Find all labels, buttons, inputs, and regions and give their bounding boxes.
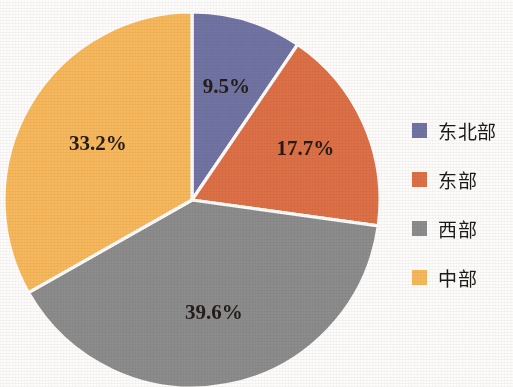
legend-color-swatch bbox=[412, 123, 427, 138]
legend-item-label: 东北部 bbox=[438, 117, 497, 144]
pie-slice-data-label: 39.6% bbox=[185, 300, 243, 324]
legend-color-swatch bbox=[412, 270, 427, 285]
pie-slices-group bbox=[4, 12, 380, 387]
chart-legend: 东北部东部西部中部 bbox=[412, 106, 511, 302]
pie-slice-data-label: 33.2% bbox=[69, 131, 127, 155]
pie-slice-data-label: 9.5% bbox=[203, 74, 250, 98]
legend-item[interactable]: 西部 bbox=[412, 204, 511, 253]
legend-item-label: 西部 bbox=[438, 215, 477, 242]
legend-item-label: 东部 bbox=[438, 166, 477, 193]
legend-color-swatch bbox=[412, 221, 427, 236]
legend-item[interactable]: 东部 bbox=[412, 155, 511, 204]
legend-item-label: 中部 bbox=[438, 264, 477, 291]
legend-item[interactable]: 中部 bbox=[412, 253, 511, 302]
legend-item[interactable]: 东北部 bbox=[412, 106, 511, 155]
pie-slice-data-label: 17.7% bbox=[277, 136, 335, 160]
pie-chart-figure: 9.5%17.7%39.6%33.2% 东北部东部西部中部 bbox=[0, 0, 513, 387]
legend-color-swatch bbox=[412, 172, 427, 187]
